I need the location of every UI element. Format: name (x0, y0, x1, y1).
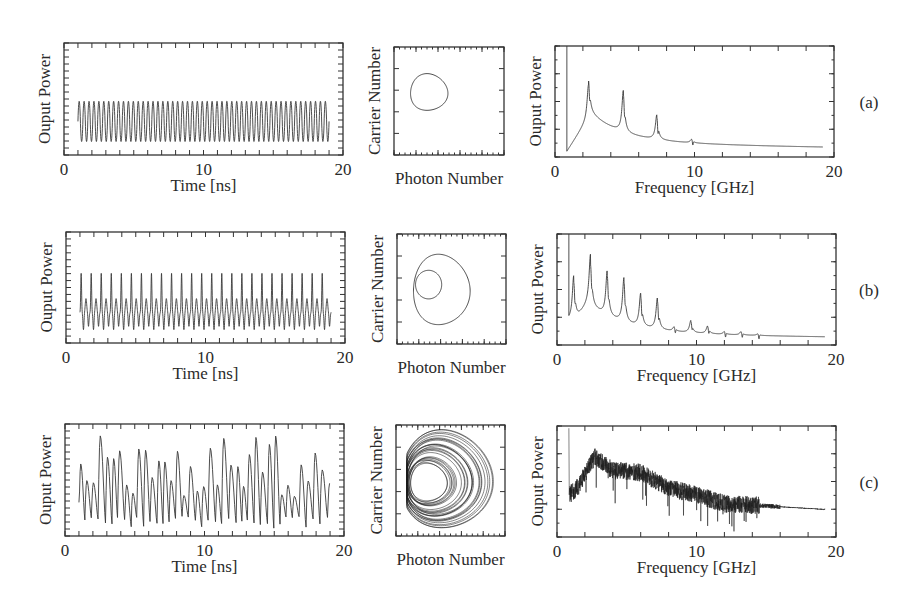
time-series-xtick-label: 20 (335, 160, 352, 179)
time-series-xtick-label: 20 (336, 541, 353, 560)
time-series-panel: 01020Ouput PowerTime [ns] (37, 232, 354, 383)
figure-row-b: 01020Ouput PowerTime [ns]Carrier NumberP… (37, 232, 879, 385)
spectrum-xtick-label: 0 (553, 542, 562, 561)
phase-portrait-xlabel: Photon Number (397, 358, 505, 377)
spectrum-xtick-label: 0 (551, 162, 560, 181)
limit-cycle (411, 74, 448, 111)
phase-portrait-panel: Carrier NumberPhoton Number (367, 425, 505, 569)
inner-loop (416, 270, 442, 299)
phase-portrait-frame (394, 47, 504, 155)
time-trace (79, 436, 330, 528)
spectrum-xlabel: Frequency [GHz] (635, 178, 754, 197)
outer-loop (413, 254, 470, 324)
figure-row-c: 01020Ouput PowerTime [ns]Carrier NumberP… (36, 424, 878, 577)
time-series-panel: 01020Ouput PowerTime [ns] (35, 43, 352, 195)
time-series-xtick-label: 0 (60, 160, 69, 179)
time-series-xtick-label: 0 (62, 348, 71, 367)
spectrum-ylabel: Ouput Power (528, 244, 547, 335)
phase-portrait-panel: Carrier NumberPhoton Number (368, 234, 506, 377)
spectrum-xtick-label: 0 (553, 350, 562, 369)
spectrum-xtick-label: 20 (828, 350, 845, 369)
time-series-xtick-label: 20 (337, 348, 354, 367)
spectrum-trace (569, 234, 825, 339)
spectrum-panel: 01020Ouput PowerFrequency [GHz] (526, 46, 843, 197)
row-label: (c) (860, 473, 879, 492)
figure-row-a: 01020Ouput PowerTime [ns]Carrier NumberP… (35, 43, 878, 197)
time-series-xlabel: Time [ns] (172, 557, 238, 576)
time-series-ylabel: Ouput Power (36, 435, 55, 526)
spectrum-frame (555, 46, 834, 157)
time-series-xlabel: Time [ns] (171, 176, 237, 195)
spectrum-xlabel: Frequency [GHz] (637, 558, 756, 577)
spectrum-frame (557, 426, 836, 537)
spectrum-xlabel: Frequency [GHz] (637, 366, 756, 385)
figure: 01020Ouput PowerTime [ns]Carrier NumberP… (0, 0, 915, 600)
row-label: (b) (859, 281, 879, 300)
phase-portrait-xlabel: Photon Number (396, 550, 504, 569)
phase-portrait-panel: Carrier NumberPhoton Number (365, 47, 504, 188)
spectrum-panel: 01020Ouput PowerFrequency [GHz] (528, 234, 845, 385)
time-series-panel: 01020Ouput PowerTime [ns] (36, 424, 353, 576)
row-label: (a) (860, 93, 879, 112)
spectrum-trace (569, 428, 825, 531)
time-series-ylabel: Ouput Power (37, 242, 56, 333)
attractor-orbit (410, 463, 447, 501)
phase-portrait-ylabel: Carrier Number (365, 47, 384, 155)
time-series-xlabel: Time [ns] (173, 364, 239, 383)
attractor-orbit (408, 459, 452, 504)
phase-portrait-ylabel: Carrier Number (368, 235, 387, 343)
spectrum-xtick-label: 20 (828, 542, 845, 561)
phase-portrait-ylabel: Carrier Number (367, 426, 386, 534)
time-series-xtick-label: 0 (61, 541, 70, 560)
time-series-frame (66, 232, 345, 343)
spectrum-trace (567, 46, 823, 151)
spectrum-frame (557, 234, 836, 345)
spectrum-panel: 01020Ouput PowerFrequency [GHz] (528, 426, 845, 577)
time-series-ylabel: Ouput Power (35, 54, 54, 145)
spectrum-ylabel: Ouput Power (528, 436, 547, 527)
time-trace (80, 273, 331, 329)
spectrum-ylabel: Ouput Power (526, 56, 545, 147)
time-trace (78, 101, 329, 141)
spectrum-xtick-label: 20 (826, 162, 843, 181)
phase-portrait-xlabel: Photon Number (395, 169, 503, 188)
